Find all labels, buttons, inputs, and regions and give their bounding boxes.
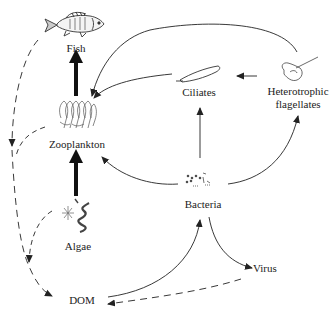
label-bacteria: Bacteria xyxy=(185,198,222,211)
arrow-bacteria-to-flagellates xyxy=(228,116,298,184)
arrow-zooplankton-to-dom xyxy=(16,127,45,156)
arrow-dom-to-bacteria xyxy=(108,220,200,297)
label-heterotrophic: Heterotrophic xyxy=(267,85,328,98)
ciliates-icon xyxy=(176,66,220,82)
algae-icon xyxy=(62,199,89,232)
label-zooplankton: Zooplankton xyxy=(49,138,105,151)
arrow-virus-to-dom xyxy=(108,279,241,304)
arrow-fish-to-dom xyxy=(12,150,52,296)
food-web-diagram: Fish Zooplankton Algae DOM Bacteria Viru… xyxy=(0,0,335,314)
arrow-fish-to-dom-upper xyxy=(12,40,38,146)
label-flagellates: flagellates xyxy=(275,98,320,111)
label-algae: Algae xyxy=(65,240,91,253)
label-virus: Virus xyxy=(253,262,277,275)
label-ciliates: Ciliates xyxy=(182,86,216,99)
arrow-bacteria-to-zooplankton xyxy=(102,157,178,184)
bacteria-icon xyxy=(186,173,210,186)
diagram-canvas xyxy=(0,0,335,314)
arrow-ciliates-to-zooplankton xyxy=(94,74,172,98)
label-dom: DOM xyxy=(69,294,95,307)
arrow-bacteria-to-virus xyxy=(209,217,252,268)
fish-icon xyxy=(45,12,104,37)
label-fish: Fish xyxy=(67,42,86,55)
heterotrophic-flagellates-icon xyxy=(282,57,318,81)
arrow-algae-to-dom xyxy=(29,211,52,262)
zooplankton-icon xyxy=(60,101,97,128)
